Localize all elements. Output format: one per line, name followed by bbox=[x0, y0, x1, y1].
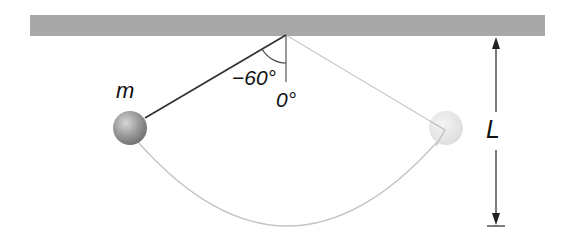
length-label: L bbox=[486, 117, 500, 142]
equilibrium-angle-label: 0° bbox=[276, 89, 296, 110]
ghost-bob bbox=[429, 111, 463, 145]
arrowhead-down-icon bbox=[492, 213, 500, 225]
pendulum-bob bbox=[113, 111, 147, 145]
arrowhead-up-icon bbox=[492, 37, 500, 49]
start-angle-label: −60° bbox=[232, 67, 276, 88]
pendulum-diagram bbox=[0, 0, 567, 237]
angle-arc bbox=[262, 49, 286, 63]
ghost-string bbox=[286, 35, 445, 130]
mass-label: m bbox=[116, 80, 134, 102]
swing-arc bbox=[138, 142, 437, 226]
ceiling-bar bbox=[30, 15, 545, 36]
